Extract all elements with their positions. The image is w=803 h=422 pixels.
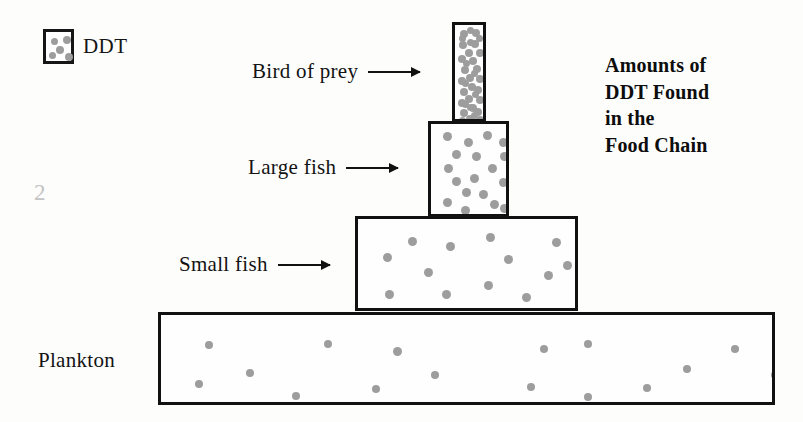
large-fish-ddt-dot — [472, 152, 481, 161]
bird-of-prey-ddt-dot — [459, 35, 466, 42]
large-fish-ddt-dot — [499, 138, 508, 147]
bar-bird-of-prey — [452, 22, 486, 122]
plankton-ddt-dot — [205, 341, 213, 349]
plankton-ddt-dot — [584, 340, 592, 348]
callout-small-fish: Small fish — [179, 252, 330, 277]
small-fish-ddt-dot — [424, 268, 433, 277]
large-fish-ddt-dot — [479, 190, 488, 199]
plankton-ddt-dot — [292, 392, 300, 400]
plankton-ddt-dot — [372, 385, 380, 393]
callout-plankton: Plankton — [38, 348, 115, 373]
plankton-ddt-dot — [540, 345, 548, 353]
plankton-ddt-dot — [324, 340, 332, 348]
bar-large-fish — [428, 121, 509, 217]
large-fish-ddt-dot — [444, 164, 453, 173]
figure-title: Amounts ofDDT Foundin theFood Chain — [605, 52, 709, 158]
small-fish-ddt-dot — [385, 290, 394, 299]
small-fish-ddt-dot — [442, 290, 451, 299]
arrow-to-large-fish — [346, 167, 398, 169]
callout-large-fish: Large fish — [248, 155, 398, 180]
large-fish-ddt-dot — [470, 174, 479, 183]
bar-plankton — [158, 312, 775, 405]
bird-of-prey-ddt-dot — [476, 35, 483, 42]
small-fish-ddt-dot — [484, 281, 493, 290]
small-fish-ddt-dot — [563, 261, 572, 270]
label-plankton: Plankton — [38, 348, 115, 373]
large-fish-ddt-dot — [490, 200, 499, 209]
bird-of-prey-ddt-dot — [467, 27, 474, 34]
legend-ddt-dot — [65, 53, 73, 61]
callout-bird-of-prey: Bird of prey — [252, 59, 420, 84]
legend: DDT — [43, 29, 127, 64]
plankton-ddt-dot — [195, 380, 203, 388]
ddt-dots-swatch-icon — [43, 29, 74, 64]
plankton-ddt-dot — [683, 365, 691, 373]
plankton-ddt-dot — [643, 384, 651, 392]
bird-of-prey-ddt-dot — [471, 70, 478, 77]
large-fish-ddt-dot — [500, 152, 509, 161]
plankton-ddt-dot — [246, 369, 254, 377]
small-fish-ddt-dot — [408, 237, 417, 246]
plankton-ddt-dot — [584, 393, 592, 401]
bird-of-prey-ddt-dot — [465, 49, 473, 57]
figure-title-line-2: in the — [605, 105, 709, 132]
small-fish-ddt-dot — [504, 255, 513, 264]
small-fish-ddt-dot — [486, 233, 495, 242]
arrow-to-bird-of-prey — [368, 71, 420, 73]
bird-of-prey-ddt-dot — [467, 104, 474, 111]
large-fish-ddt-dot — [443, 132, 452, 141]
label-large-fish: Large fish — [248, 155, 336, 180]
plankton-ddt-dot — [431, 371, 439, 379]
large-fish-ddt-dot — [452, 150, 461, 159]
small-fish-ddt-dot — [446, 242, 455, 251]
large-fish-ddt-dot — [500, 204, 509, 213]
plankton-ddt-dot — [731, 345, 739, 353]
small-fish-ddt-dot — [544, 271, 553, 280]
legend-ddt-dot — [51, 38, 58, 45]
large-fish-ddt-dot — [499, 178, 508, 187]
bird-of-prey-ddt-dot — [471, 112, 478, 119]
legend-label: DDT — [83, 34, 127, 59]
large-fish-ddt-dot — [443, 198, 452, 207]
bird-of-prey-ddt-dot — [459, 41, 467, 49]
bird-of-prey-ddt-dot — [467, 39, 474, 46]
bar-small-fish — [355, 216, 578, 311]
ddt-food-chain-figure: 2 DDT Bird of prey Large fish Small fish… — [0, 0, 803, 422]
small-fish-ddt-dot — [552, 238, 561, 247]
bird-of-prey-ddt-dot — [469, 57, 477, 65]
bird-of-prey-ddt-dot — [461, 66, 469, 74]
large-fish-ddt-dot — [452, 177, 461, 186]
large-fish-ddt-dot — [461, 206, 470, 215]
bird-of-prey-ddt-dot — [476, 49, 484, 57]
legend-ddt-dot — [49, 52, 56, 59]
figure-title-line-0: Amounts of — [605, 52, 709, 79]
large-fish-ddt-dot — [464, 138, 473, 147]
label-bird-of-prey: Bird of prey — [252, 59, 358, 84]
small-fish-ddt-dot — [522, 293, 531, 302]
large-fish-ddt-dot — [488, 164, 497, 173]
bird-of-prey-ddt-dot — [472, 91, 479, 98]
figure-title-line-3: Food Chain — [605, 132, 709, 159]
legend-ddt-dot — [56, 46, 64, 54]
label-small-fish: Small fish — [179, 252, 268, 277]
legend-ddt-dot — [63, 36, 71, 44]
bird-of-prey-ddt-dot — [462, 80, 469, 87]
bird-of-prey-ddt-dot — [476, 75, 484, 83]
plankton-ddt-dot — [527, 383, 535, 391]
arrow-to-small-fish — [278, 264, 330, 266]
small-fish-ddt-dot — [383, 253, 392, 262]
plankton-ddt-dot — [771, 371, 775, 379]
bird-of-prey-ddt-dot — [463, 60, 470, 67]
large-fish-ddt-dot — [483, 131, 492, 140]
large-fish-ddt-dot — [462, 188, 471, 197]
page-number: 2 — [34, 180, 46, 206]
plankton-ddt-dot — [393, 347, 402, 356]
figure-title-line-1: DDT Found — [605, 79, 709, 106]
